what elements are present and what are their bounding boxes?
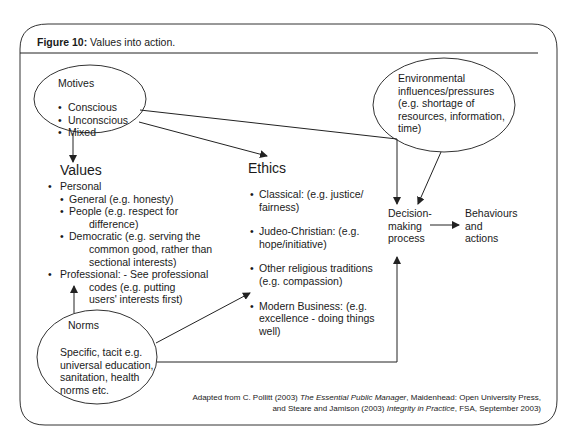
values-list: •Personal •General (e.g. honesty) •Peopl…: [48, 180, 212, 306]
bullet: •: [60, 205, 64, 218]
decision-line: process: [388, 232, 432, 245]
citation-text: Adapted from C. Pollitt (2003): [192, 393, 300, 402]
values-heading: Values: [60, 162, 102, 178]
citation-text: , Maidenhead: Open University Press,: [406, 393, 541, 402]
norms-text: Specific, tacit e.g. universal education…: [60, 346, 153, 396]
values-people-cont: difference): [48, 218, 212, 231]
motives-item: Conscious: [58, 101, 128, 114]
motives-list: Conscious Unconscious Mixed: [58, 101, 128, 139]
values-general: General (e.g. honesty): [69, 193, 173, 205]
ethics-judeo-christian: Judeo-Christian: (e.g.: [259, 225, 359, 237]
citation-book-title: Integrity in Practice: [387, 404, 455, 413]
bullet: •: [48, 180, 52, 193]
citation-line-2: and Steare and Jamison (2003) Integrity …: [192, 403, 541, 414]
values-professional-cont: users' interests first): [48, 293, 212, 306]
environment-line: time): [398, 122, 505, 135]
ethics-judeo-christian-cont: hope/initiative): [250, 238, 375, 251]
norms-line: sanitation, health: [60, 371, 153, 384]
citation: Adapted from C. Pollitt (2003) The Essen…: [192, 392, 541, 414]
values-professional-cont: codes (e.g. putting: [48, 281, 212, 294]
bullet: •: [60, 230, 64, 243]
ethics-other-religious-cont: (e.g. compassion): [250, 275, 375, 288]
environment-line: influences/pressures: [398, 85, 505, 98]
values-democratic-cont: sectional interests): [48, 256, 212, 269]
norms-line: universal education,: [60, 359, 153, 372]
values-people: People (e.g. respect for: [69, 205, 178, 217]
citation-book-title: The Essential Public Manager: [300, 393, 406, 402]
motives-item: Mixed: [58, 126, 128, 139]
values-personal: Personal: [60, 180, 101, 192]
ethics-other-religious: Other religious traditions: [259, 262, 373, 274]
citation-text: , FSA, September 2003): [455, 404, 541, 413]
ethics-modern-business-cont: excellence - doing things: [250, 312, 375, 325]
figure-title: Figure 10: Values into action.: [37, 36, 175, 49]
motives-heading: Motives: [58, 77, 94, 90]
values-democratic: Democratic (e.g. serving the: [69, 230, 200, 242]
environment-line: Environmental: [398, 72, 505, 85]
norms-line: norms etc.: [60, 384, 153, 397]
figure-label: Figure 10:: [37, 36, 87, 48]
norms-line: Specific, tacit e.g.: [60, 346, 153, 359]
norms-heading: Norms: [68, 319, 99, 332]
arrow-motives-ethics: [139, 122, 267, 156]
ethics-classical-cont: fairness): [250, 201, 375, 214]
bullet: •: [250, 225, 254, 238]
bullet: •: [250, 262, 254, 275]
environment-line: (e.g. shortage of: [398, 97, 505, 110]
ethics-heading: Ethics: [248, 160, 286, 176]
ethics-list: •Classical: (e.g. justice/ fairness) •Ju…: [250, 188, 375, 337]
bullet: •: [48, 268, 52, 281]
behaviours-line: and: [465, 220, 518, 233]
behaviours-line: Behaviours: [465, 207, 518, 220]
arrow-environment-decision: [418, 152, 441, 204]
bullet: •: [250, 300, 254, 313]
motives-item: Unconscious: [58, 114, 128, 127]
ethics-modern-business-cont: well): [250, 325, 375, 338]
ethics-classical: Classical: (e.g. justice/: [259, 188, 363, 200]
values-professional: Professional: - See professional: [60, 268, 208, 280]
behaviours-and-actions: Behaviours and actions: [465, 207, 518, 245]
bullet: •: [60, 193, 64, 206]
decision-line: making: [388, 220, 432, 233]
citation-line-1: Adapted from C. Pollitt (2003) The Essen…: [192, 392, 541, 403]
figure-title-text: Values into action.: [90, 36, 175, 48]
bullet: •: [250, 188, 254, 201]
values-democratic-cont: common good, rather than: [48, 243, 212, 256]
behaviours-line: actions: [465, 232, 518, 245]
decision-making-process: Decision- making process: [388, 207, 432, 245]
decision-line: Decision-: [388, 207, 432, 220]
citation-text: and Steare and Jamison (2003): [272, 404, 386, 413]
environment-line: resources, information,: [398, 110, 505, 123]
ethics-modern-business: Modern Business: (e.g.: [259, 300, 367, 312]
environment-text: Environmental influences/pressures (e.g.…: [398, 72, 505, 135]
